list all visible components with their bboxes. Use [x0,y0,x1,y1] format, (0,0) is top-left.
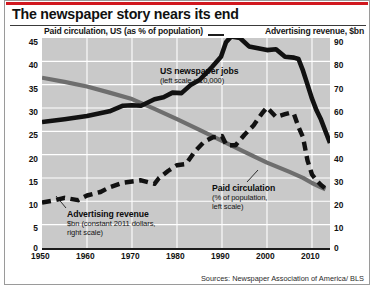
subtitle-right: Advertising revenue, $bn [265,26,364,36]
y-tick-left-30: 30 [12,108,38,116]
annotation-jobs: US newspaper jobs (left scale x 10,000) [160,66,238,85]
annotation-jobs-heading: US newspaper jobs [160,66,238,76]
annotation-jobs-sub1: (left scale x 10,000) [160,76,238,85]
x-tick-1950: 1950 [31,252,50,261]
annotation-ad-revenue: Advertising revenue $bn (constant 2011 d… [67,209,155,237]
x-tick-1990: 1990 [211,252,230,261]
y-tick-right-30: 30 [334,178,360,186]
x-tick-1970: 1970 [121,252,140,261]
annotation-ad-revenue-sub1: $bn (constant 2011 dollars, [67,219,155,228]
y-tick-right-90: 90 [334,38,360,46]
annotation-circulation: Paid circulation (% of population, left … [212,183,275,211]
accent-rule [6,2,368,5]
x-tick-2000: 2000 [256,252,275,261]
y-tick-left-5: 5 [12,224,38,232]
y-tick-right-60: 60 [334,108,360,116]
annotation-circulation-heading: Paid circulation [212,183,275,193]
x-tick-1980: 1980 [166,252,185,261]
annotation-circulation-sub1: (% of population, [212,193,275,202]
legend-dash-icon [208,34,224,36]
chart-title: The newspaper story nears its end [12,6,362,23]
x-axis-line [42,248,330,250]
y-tick-left-10: 10 [12,201,38,209]
x-tick-2010: 2010 [301,252,320,261]
annotation-circulation-sub2: left scale) [212,202,275,211]
subtitle-left: Paid circulation, US (as % of population… [44,26,203,36]
y-tick-left-25: 25 [12,131,38,139]
y-tick-right-10: 10 [334,224,360,232]
y-tick-left-40: 40 [12,61,38,69]
x-tick-1960: 1960 [76,252,95,261]
annotation-ad-revenue-heading: Advertising revenue [67,209,155,219]
annotation-ad-revenue-sub2: right scale) [67,228,155,237]
y-tick-left-20: 20 [12,155,38,163]
y-tick-left-15: 15 [12,178,38,186]
y-tick-right-0: 0 [334,244,360,252]
series-jobs-line [42,38,330,143]
y-tick-right-70: 70 [334,85,360,93]
chart-figure: The newspaper story nears its end Paid c… [0,0,374,287]
y-tick-right-40: 40 [334,155,360,163]
y-tick-left-35: 35 [12,85,38,93]
y-tick-left-45: 45 [12,38,38,46]
series-circulation-line [42,78,326,190]
y-tick-right-20: 20 [334,201,360,209]
y-tick-right-80: 80 [334,61,360,69]
source-note: Sources: Newspaper Association of Americ… [201,274,364,283]
y-tick-right-50: 50 [334,131,360,139]
